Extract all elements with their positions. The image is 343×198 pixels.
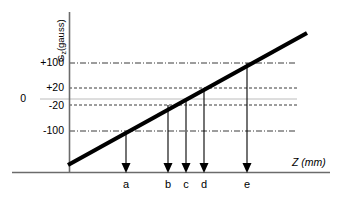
y-tick-label-minus100: -100	[22, 125, 64, 136]
annotation-arrow-b	[164, 105, 173, 173]
annotation-arrow-e	[243, 63, 252, 173]
annotation-arrow-d	[200, 88, 209, 173]
annotation-arrow-c	[182, 99, 191, 173]
annotation-arrow-a	[122, 131, 131, 173]
x-tick-label-d: d	[196, 178, 212, 190]
x-tick-label-c: c	[178, 178, 194, 190]
y-axis-title-unit: (gauss)	[55, 19, 66, 51]
x-tick-label-b: b	[160, 178, 176, 190]
y-tick-label-minus20: -20	[22, 100, 64, 111]
x-tick-label-e: e	[239, 178, 255, 190]
x-axis-title: Z (mm)	[292, 157, 326, 168]
gradient-field-chart: Gz(gauss) +100 +20 0 -20 -100 a b c d e …	[0, 0, 343, 198]
y-axis-title-subscript: z	[60, 51, 67, 55]
y-tick-label-plus20: +20	[22, 82, 64, 93]
y-tick-label-plus100: +100	[22, 57, 64, 68]
x-tick-label-a: a	[118, 178, 134, 190]
